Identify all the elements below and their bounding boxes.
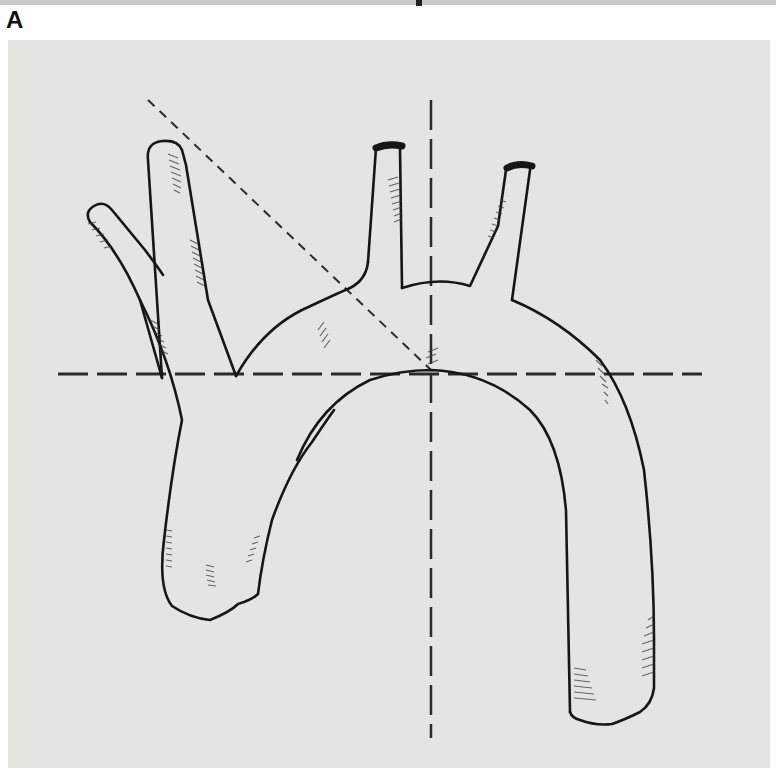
inner-arch-outline <box>297 370 570 712</box>
arch-upper-left-outline <box>236 262 368 376</box>
hatch-right-carotid <box>168 154 181 193</box>
aortic-arch-diagram <box>0 0 776 772</box>
hatch-descending-bottom-left <box>574 668 596 700</box>
hatch-stump-left <box>166 530 172 567</box>
hatch-descending-bottom-right <box>642 616 654 676</box>
arch-top-outline <box>402 170 506 288</box>
left-subclavian-cap <box>507 164 532 168</box>
descending-aorta-outer-outline <box>512 300 654 725</box>
hatch-stump-right <box>246 536 260 562</box>
left-common-carotid-outline <box>368 148 402 288</box>
reference-lines <box>58 100 702 738</box>
diagonal-dashed-line <box>148 100 431 370</box>
brachiocephalic-trunk-outline <box>140 300 334 620</box>
right-common-carotid-outline <box>148 141 236 378</box>
hatch-arch-left <box>318 322 330 348</box>
vessel-outlines <box>88 141 654 725</box>
hatch-stump-center <box>206 565 216 586</box>
left-subclavian-outline <box>512 170 530 300</box>
hatch-left-subclavian <box>488 200 506 238</box>
left-common-carotid-cap <box>376 145 402 148</box>
